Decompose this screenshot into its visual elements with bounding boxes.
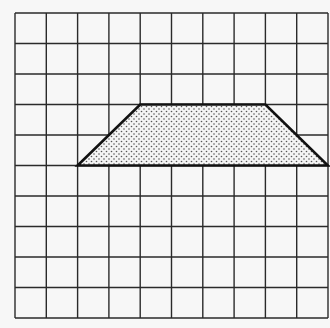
grid-diagram [0,0,330,328]
